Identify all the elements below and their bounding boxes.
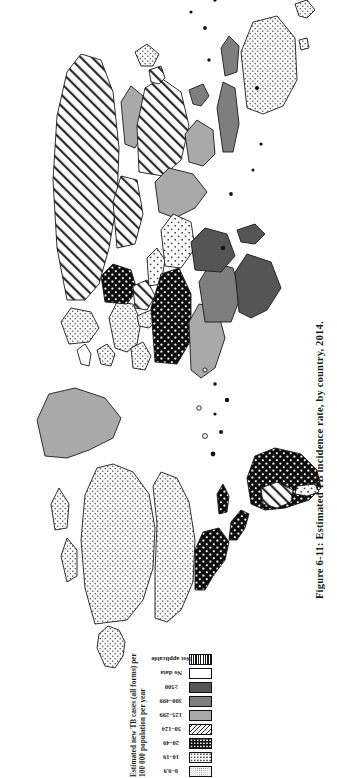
figure-container: Estimated new TB cases (all forms) per 1… xyxy=(0,0,337,778)
legend-item-125-299: 125–299 xyxy=(154,710,212,721)
region-western-europe xyxy=(109,302,141,352)
region-indonesia xyxy=(217,82,239,152)
legend-swatch xyxy=(189,724,212,735)
legend-title: Estimated new TB cases (all forms) per 1… xyxy=(130,645,149,777)
region-canada-arctic-1 xyxy=(61,538,77,582)
legend-item-20-49: 20–49 xyxy=(154,738,212,749)
legend-item-10-19: 10–19 xyxy=(154,752,212,763)
legend-item-not-applicable: Not applicable xyxy=(154,654,212,665)
region-southern-africa xyxy=(235,254,281,318)
world-map xyxy=(9,0,329,700)
legend-items: 0–9.9 10–19 20–49 50–124 125–299 xyxy=(154,600,212,777)
legend-rotation-wrapper: Estimated new TB cases (all forms) per 1… xyxy=(130,600,310,778)
caption-rotation-wrapper: Figure 6-11: Estimated TB incidence rate… xyxy=(309,179,329,599)
legend-item-300-499: 300–499 xyxy=(154,696,212,707)
legend-swatch xyxy=(189,766,212,777)
legend-swatch xyxy=(189,738,212,749)
legend-label: 125–299 xyxy=(154,712,188,719)
region-canada-arctic-2 xyxy=(51,488,69,530)
legend-swatch xyxy=(189,682,212,693)
legend-swatch xyxy=(189,696,212,707)
region-middle-east xyxy=(161,214,195,268)
legend: Estimated new TB cases (all forms) per 1… xyxy=(130,600,310,778)
legend-label: Not applicable xyxy=(154,656,188,663)
legend-label: 50–124 xyxy=(154,726,188,733)
legend-label: 0–9.9 xyxy=(154,768,188,775)
region-greenland xyxy=(37,388,121,458)
region-russia xyxy=(53,54,119,300)
legend-swatch xyxy=(189,752,212,763)
legend-swatch xyxy=(189,710,212,721)
region-madagascar xyxy=(237,224,265,244)
region-japan xyxy=(135,44,159,66)
island-dots-open xyxy=(196,368,207,438)
legend-label: 300–499 xyxy=(154,698,188,705)
region-caribbean xyxy=(217,484,229,514)
legend-item-50-124: 50–124 xyxy=(154,724,212,735)
region-alaska xyxy=(97,626,125,668)
legend-label: 10–19 xyxy=(154,754,188,761)
region-mexico xyxy=(195,528,229,590)
region-india xyxy=(155,168,207,218)
region-east-africa xyxy=(191,228,235,272)
region-philippines xyxy=(189,84,209,106)
caption-text: Figure 6-11: Estimated TB incidence rate… xyxy=(313,321,324,599)
region-australia xyxy=(241,16,297,114)
legend-item-0-9.9: 0–9.9 xyxy=(154,766,212,777)
legend-item-500-plus: ≥500 xyxy=(154,682,212,693)
region-central-america xyxy=(229,510,249,540)
region-eastern-europe xyxy=(101,264,137,304)
region-korea xyxy=(149,66,165,84)
legend-label: 20–49 xyxy=(154,740,188,747)
region-iceland xyxy=(77,344,91,366)
legend-item-no-data: No data xyxy=(154,668,212,679)
figure-caption: Figure 6-11: Estimated TB incidence rate… xyxy=(300,0,337,778)
map-rotation-wrapper xyxy=(9,0,329,700)
region-uk-ireland xyxy=(97,344,115,366)
legend-swatch xyxy=(189,668,212,679)
region-china xyxy=(137,78,189,176)
region-papua xyxy=(221,36,239,76)
legend-label: No data xyxy=(154,670,188,677)
map-stage xyxy=(0,0,337,700)
region-scandinavia xyxy=(61,308,99,344)
legend-label: ≥500 xyxy=(154,684,188,691)
legend-swatch xyxy=(189,654,212,665)
